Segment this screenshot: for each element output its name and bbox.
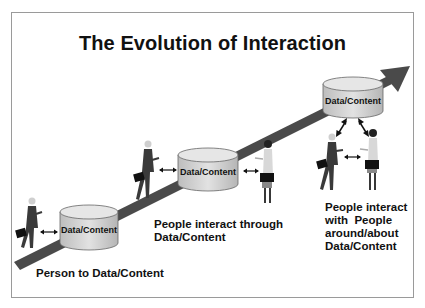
double-arrow-icon [159, 168, 177, 173]
businesswoman-icon [360, 129, 379, 190]
businessman-icon [133, 141, 159, 201]
cylinder-label: Data/Content [178, 167, 238, 177]
double-arrow-icon [40, 230, 58, 235]
double-arrow-icon [243, 169, 259, 174]
cylinder-label: Data/Content [323, 96, 383, 106]
stage-3-caption: People interact with People around/about… [325, 201, 407, 253]
businessman-icon [316, 134, 343, 191]
stage-2-caption: People interact through Data/Content [154, 218, 283, 244]
stage-1-caption: Person to Data/Content [36, 267, 164, 280]
cylinder-label: Data/Content [60, 225, 118, 235]
double-arrow-icon [344, 155, 361, 160]
evolution-diagram [0, 0, 425, 308]
businessman-icon [15, 198, 42, 249]
diagonal-arrow-icon [336, 118, 347, 137]
diagonal-arrow-icon [358, 118, 369, 137]
